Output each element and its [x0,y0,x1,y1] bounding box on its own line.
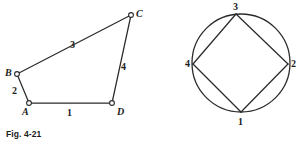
node-label-1: 1 [238,117,243,127]
vertex-marker-b [15,72,20,77]
vertex-marker-d [110,101,115,106]
vertex-marker-a [27,101,32,106]
chord-2-3 [236,14,288,64]
vertex-label-a: A [22,107,29,117]
figure-caption-left: Fig. 4-21 [6,129,41,139]
chord-1-2 [241,64,288,112]
vertex-label-d: D [117,107,124,117]
quadrilateral-abcd-drawing [0,0,148,145]
vertex-label-c: C [136,9,143,19]
circle-inscribed-quadrilateral-drawing [148,0,296,145]
side-2-segment-ab [17,74,29,103]
side-label-3: 3 [70,40,75,50]
side-4-segment-cd [112,15,131,103]
side-label-2: 2 [12,86,17,96]
figure-4-21: A B C D 1 2 3 4 Fig. 4-21 [0,0,148,145]
side-label-1: 1 [67,108,72,118]
node-label-4: 4 [185,59,190,69]
node-label-3: 3 [233,2,238,12]
node-label-2: 2 [291,59,296,69]
vertex-label-b: B [5,68,12,78]
side-label-4: 4 [121,62,126,72]
vertex-marker-c [129,13,134,18]
chord-4-1 [193,64,241,112]
figure-4-22: 1 2 3 4 Fig. 4-22 [148,0,296,145]
circumscribed-circle [192,14,290,112]
